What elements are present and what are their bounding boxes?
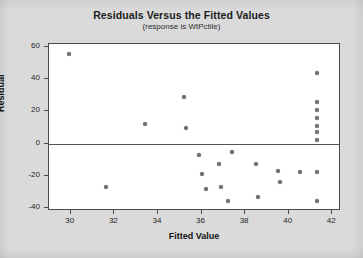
data-point [315, 130, 319, 134]
data-point [204, 187, 208, 191]
data-point [278, 180, 282, 184]
data-point [315, 116, 319, 120]
data-point [315, 71, 319, 75]
x-tick-label: 38 [231, 216, 257, 225]
x-tick-mark [201, 210, 202, 214]
data-point [143, 122, 147, 126]
zero-reference-line [49, 144, 340, 145]
data-point [315, 108, 319, 112]
data-point [254, 162, 258, 166]
data-point [315, 138, 319, 142]
x-tick-mark [113, 210, 114, 214]
plot-area [48, 43, 340, 210]
data-point [67, 52, 71, 56]
data-point [276, 169, 280, 173]
x-tick-mark [70, 210, 71, 214]
data-point [182, 95, 186, 99]
data-point [298, 170, 302, 174]
data-point [315, 124, 319, 128]
data-point [315, 100, 319, 104]
data-point [219, 185, 223, 189]
data-point [104, 185, 108, 189]
data-point [315, 199, 319, 203]
data-point [184, 126, 188, 130]
data-point [217, 162, 221, 166]
data-point [197, 153, 201, 157]
data-point [200, 172, 204, 176]
x-tick-mark [157, 210, 158, 214]
x-tick-label: 34 [144, 216, 170, 225]
data-point [256, 195, 260, 199]
x-tick-label: 30 [57, 216, 83, 225]
residuals-scatter-chart: Residuals Versus the Fitted Values (resp… [0, 0, 363, 258]
data-point [315, 170, 319, 174]
x-tick-label: 40 [275, 216, 301, 225]
x-tick-mark [288, 210, 289, 214]
data-point [226, 199, 230, 203]
data-point [230, 150, 234, 154]
x-tick-label: 32 [100, 216, 126, 225]
x-tick-label: 36 [188, 216, 214, 225]
x-tick-mark [244, 210, 245, 214]
x-tick-mark [331, 210, 332, 214]
x-tick-label: 42 [318, 216, 344, 225]
